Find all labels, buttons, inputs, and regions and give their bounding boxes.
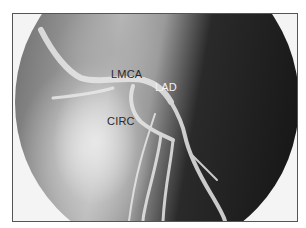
label-lad: LAD bbox=[155, 81, 177, 93]
label-lmca: LMCA bbox=[111, 68, 142, 80]
coronary-vessels bbox=[13, 14, 297, 221]
angiogram-frame: LMCA LAD CIRC bbox=[12, 13, 298, 222]
label-circ: CIRC bbox=[107, 115, 135, 127]
